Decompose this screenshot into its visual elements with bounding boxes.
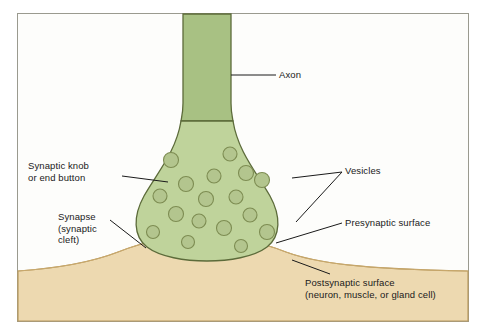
vesicle — [147, 226, 160, 239]
vesicle — [239, 166, 254, 181]
label-axon: Axon — [279, 69, 301, 81]
label-vesicles: Vesicles — [345, 165, 381, 177]
vesicle — [179, 177, 194, 192]
vesicle — [243, 208, 257, 222]
label-synapse: Synapse (synaptic cleft) — [58, 211, 97, 246]
vesicle — [217, 221, 232, 236]
axon-shape — [181, 14, 233, 121]
vesicle — [153, 189, 167, 203]
label-presynaptic-surface: Presynaptic surface — [345, 217, 430, 229]
leader-vesicles-b — [296, 172, 342, 222]
vesicle — [199, 192, 214, 207]
diagram-page: Axon Synaptic knob or end button Vesicle… — [0, 0, 486, 336]
vesicle — [260, 225, 275, 240]
vesicle — [223, 147, 237, 161]
vesicle — [255, 173, 270, 188]
label-postsynaptic-surface: Postsynaptic surface (neuron, muscle, or… — [305, 277, 436, 300]
vesicle — [164, 153, 179, 168]
vesicle — [229, 190, 243, 204]
vesicle — [169, 207, 184, 222]
vesicle — [182, 236, 195, 249]
leader-presynaptic — [276, 223, 342, 243]
vesicle — [207, 169, 221, 183]
vesicle — [235, 240, 248, 253]
vesicle — [192, 214, 206, 228]
label-synaptic-knob: Synaptic knob or end button — [28, 160, 89, 183]
leader-vesicles-a — [292, 172, 342, 178]
